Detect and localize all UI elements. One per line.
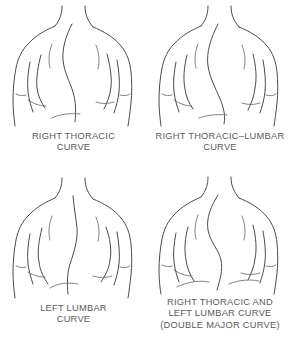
figure-caption: LEFT LUMBAR CURVE	[40, 303, 107, 326]
figure-caption: RIGHT THORACIC CURVE	[32, 131, 115, 154]
figure-left-lumbar: LEFT LUMBAR CURVE	[0, 172, 147, 344]
figure-caption: RIGHT THORACIC AND LEFT LUMBAR CURVE (DO…	[160, 297, 280, 331]
figure-caption: RIGHT THORACIC–LUMBAR CURVE	[156, 131, 285, 154]
left-lumbar-illustration	[0, 172, 147, 300]
right-thoracic-illustration	[0, 0, 147, 128]
figure-right-thoracic: RIGHT THORACIC CURVE	[0, 0, 147, 172]
figure-right-thoracic-lumbar: RIGHT THORACIC–LUMBAR CURVE	[147, 0, 293, 172]
scoliosis-figure-grid: RIGHT THORACIC CURVE RIGHT THORACIC–LUMB…	[0, 0, 293, 344]
right-thoracic-lumbar-illustration	[147, 0, 293, 128]
double-major-illustration	[147, 172, 293, 296]
figure-double-major: RIGHT THORACIC AND LEFT LUMBAR CURVE (DO…	[147, 172, 293, 344]
